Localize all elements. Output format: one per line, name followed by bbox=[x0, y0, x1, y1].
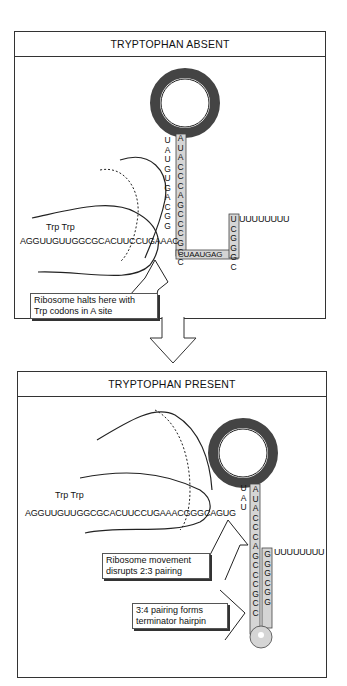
terminator-right: GGGCGG bbox=[263, 550, 272, 607]
trp-label: Trp Trp bbox=[46, 222, 75, 232]
bottom-sequence: CUAAUGAG bbox=[178, 250, 222, 259]
callout-ribosome-movement: Ribosome movement disrupts 2:3 pairing bbox=[102, 553, 210, 579]
diagram-graphics bbox=[0, 0, 347, 686]
leader-sequence: AGGUUGUUGGCGCACUUCCUGAAACGGGCAGUG bbox=[25, 508, 236, 518]
poly-u: UUUUUUUU bbox=[274, 547, 324, 557]
stem-right: AUACCCAGCCCGCC bbox=[176, 134, 185, 267]
trp-label: Trp Trp bbox=[55, 490, 84, 500]
poly-u: UUUUUUUU bbox=[239, 214, 289, 224]
callout-ribosome-halts: Ribosome halts here with Trp codons in A… bbox=[30, 293, 158, 319]
callout-terminator-hairpin: 3:4 pairing forms terminator hairpin bbox=[132, 603, 228, 629]
stem-right-outer: AUACCCAGCCCGCC bbox=[251, 485, 260, 618]
stem-left: UAU bbox=[239, 484, 248, 513]
leader-sequence: AGGUUGUUGGCGCACUUCCUGAAAC bbox=[20, 236, 179, 246]
stem-left: UAUGUGACGG bbox=[163, 136, 172, 231]
terminator-stem: UCGGGC bbox=[229, 215, 238, 272]
